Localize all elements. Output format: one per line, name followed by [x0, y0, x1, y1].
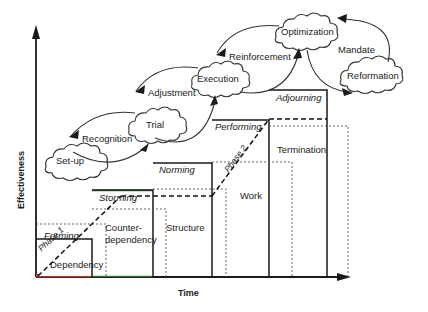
- behavior-label-counter-dependency-line1: Counter-: [105, 222, 142, 233]
- arrow-reformation-to-optimization: [340, 19, 389, 62]
- cloud-label-trial: Trial: [146, 119, 164, 130]
- cloud-label-reformation: Reformation: [347, 70, 399, 81]
- arrowhead-optimization-mandate: [337, 14, 347, 23]
- cloud-label-optimization: Optimization: [281, 26, 334, 37]
- stage-label-norming: Norming: [159, 164, 195, 175]
- stage-label-storming: Storming: [99, 192, 137, 203]
- behavior-label-counter-dependency-line2: dependency: [105, 234, 157, 245]
- transition-label-recognition: Recognition: [82, 133, 132, 144]
- diagram-canvas: Effectiveness Time Forming Storming Norm…: [0, 0, 428, 312]
- stage-label-adjourning: Adjourning: [276, 92, 321, 103]
- box-adjourning: [269, 90, 327, 277]
- cloud-label-execution: Execution: [197, 73, 239, 84]
- behavior-label-termination: Termination: [277, 144, 326, 155]
- transition-label-mandate: Mandate: [338, 44, 375, 55]
- y-axis-arrow: [32, 25, 40, 39]
- stage-label-performing: Performing: [215, 121, 261, 132]
- arrow-execution-to-optimization-top: [217, 26, 279, 53]
- dotted-structure: [153, 189, 226, 277]
- cloud-shapes: [45, 13, 403, 181]
- transition-label-reinforcement: Reinforcement: [229, 51, 291, 62]
- behavior-label-structure: Structure: [166, 222, 205, 233]
- arrowhead-recognition: [69, 130, 79, 139]
- box-norming: [153, 163, 212, 277]
- y-axis-label: Effectiveness: [16, 135, 26, 225]
- x-axis-arrow: [337, 273, 351, 281]
- behavior-label-work: Work: [240, 190, 262, 201]
- cloud-label-set-up: Set-up: [56, 155, 84, 166]
- behavior-label-dependency: Dependency: [50, 259, 103, 270]
- x-axis-label: Time: [178, 288, 199, 298]
- transition-label-adjustment: Adjustment: [148, 87, 196, 98]
